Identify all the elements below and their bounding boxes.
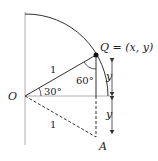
label-y-upper: y xyxy=(105,70,113,83)
angle-60-arc xyxy=(84,62,96,69)
label-radius-upper: 1 xyxy=(50,64,56,75)
label-y-lower: y xyxy=(105,108,113,121)
point-q-dot xyxy=(94,53,99,58)
label-point-a: A xyxy=(98,140,107,153)
label-angle-60: 60° xyxy=(76,75,94,86)
label-origin: O xyxy=(8,90,17,103)
label-angle-30: 30° xyxy=(44,86,62,97)
radius-oa xyxy=(25,96,96,137)
label-point-q: Q = (x, y) xyxy=(100,41,153,54)
unit-circle-diagram: O Q = (x, y) A 1 1 30° 60° y y xyxy=(0,0,158,161)
label-radius-lower: 1 xyxy=(50,119,56,130)
angle-30-arc xyxy=(39,88,41,96)
